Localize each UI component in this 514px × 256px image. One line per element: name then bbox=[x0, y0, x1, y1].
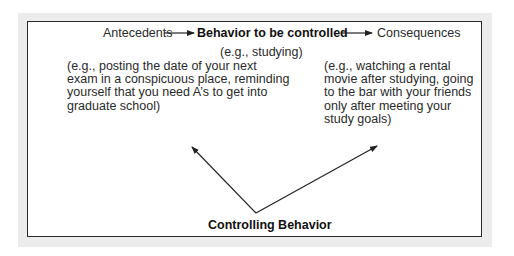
controlling-behavior-label: Controlling Behavior bbox=[208, 218, 332, 232]
arrow-controlling-to-consequences bbox=[256, 146, 377, 213]
consequences-example: (e.g., watching a rental movie after stu… bbox=[324, 60, 484, 126]
antecedents-label: Antecedents bbox=[103, 26, 173, 40]
consequences-label: Consequences bbox=[377, 26, 460, 40]
antecedents-example: (e.g., posting the date of your next exa… bbox=[67, 60, 297, 113]
behavior-example: (e.g., studying) bbox=[220, 45, 303, 59]
behavior-label: Behavior to be controlled bbox=[197, 26, 348, 40]
arrow-controlling-to-antecedents bbox=[192, 147, 256, 213]
